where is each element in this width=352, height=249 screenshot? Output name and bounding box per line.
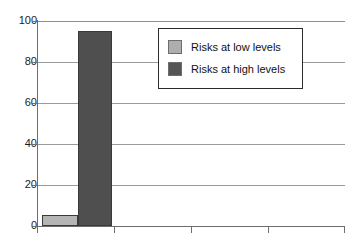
x-tick-mark-2 bbox=[191, 227, 192, 233]
legend-label-high: Risks at high levels bbox=[191, 63, 285, 75]
legend: Risks at low levels Risks at high levels bbox=[158, 28, 303, 89]
legend-label-low: Risks at low levels bbox=[191, 41, 281, 53]
bar-chart: 100 80 60 40 20 0 Risks at low levels Ri… bbox=[0, 0, 352, 249]
y-axis-ticks: 100 80 60 40 20 0 bbox=[0, 0, 37, 249]
legend-swatch-icon-high bbox=[168, 62, 182, 76]
y-axis-line bbox=[37, 20, 38, 228]
y-tick-mark-80 bbox=[32, 62, 37, 63]
y-tick-mark-40 bbox=[32, 144, 37, 145]
legend-swatch-icon-low bbox=[168, 40, 182, 54]
x-tick-mark-1 bbox=[114, 227, 115, 233]
bar-risks-at-low-levels bbox=[42, 215, 78, 226]
legend-item-high: Risks at high levels bbox=[168, 58, 302, 80]
y-tick-mark-20 bbox=[32, 185, 37, 186]
y-tick-mark-60 bbox=[32, 103, 37, 104]
x-tick-mark-4 bbox=[344, 227, 345, 233]
legend-item-low: Risks at low levels bbox=[168, 36, 302, 58]
y-tick-mark-100 bbox=[32, 21, 37, 22]
x-tick-mark-3 bbox=[268, 227, 269, 233]
bar-risks-at-high-levels bbox=[78, 31, 112, 226]
x-tick-mark-0 bbox=[37, 227, 38, 233]
gridline-100 bbox=[37, 21, 345, 22]
